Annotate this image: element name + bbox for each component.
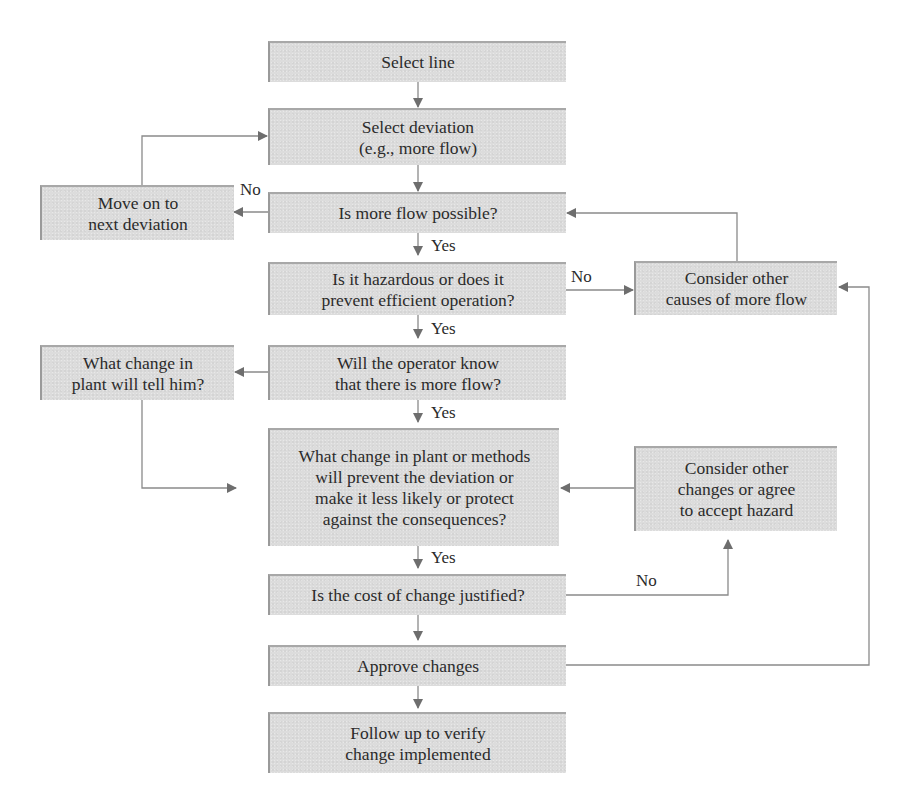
edge-label-yes-hazard: Yes xyxy=(431,320,456,338)
node-what-change-tell: What change in plant will tell him? xyxy=(40,345,234,400)
edge-label-yes-prevent: Yes xyxy=(431,549,456,567)
node-consider-other-changes: Consider other changes or agree to accep… xyxy=(634,446,837,531)
node-is-hazardous: Is it hazardous or does it prevent effic… xyxy=(268,262,566,315)
node-move-on: Move on to next deviation xyxy=(40,185,234,240)
edge-label-yes-possible: Yes xyxy=(431,237,456,255)
edge-label-no-cost: No xyxy=(636,572,657,590)
edge-label-yes-operator: Yes xyxy=(431,404,456,422)
connector-other-causes-to-possible xyxy=(567,213,737,261)
node-approve-changes: Approve changes xyxy=(268,645,566,686)
node-what-change-prevent: What change in plant or methods will pre… xyxy=(268,428,559,546)
node-select-line: Select line xyxy=(268,41,566,82)
edge-label-no-hazard: No xyxy=(571,268,592,286)
node-follow-up: Follow up to verify change implemented xyxy=(268,712,566,773)
node-more-flow-possible: Is more flow possible? xyxy=(268,192,566,233)
node-select-deviation: Select deviation (e.g., more flow) xyxy=(268,108,566,165)
node-cost-justified: Is the cost of change justified? xyxy=(268,574,566,615)
node-operator-know: Will the operator know that there is mor… xyxy=(268,345,566,400)
connector-move-on-to-deviation xyxy=(142,136,267,185)
hazop-flowchart: Select line Select deviation (e.g., more… xyxy=(0,0,905,803)
node-consider-other-causes: Consider other causes of more flow xyxy=(634,261,837,315)
connector-tell-to-prevent xyxy=(142,400,236,488)
edge-label-no-move-on: No xyxy=(240,181,261,199)
